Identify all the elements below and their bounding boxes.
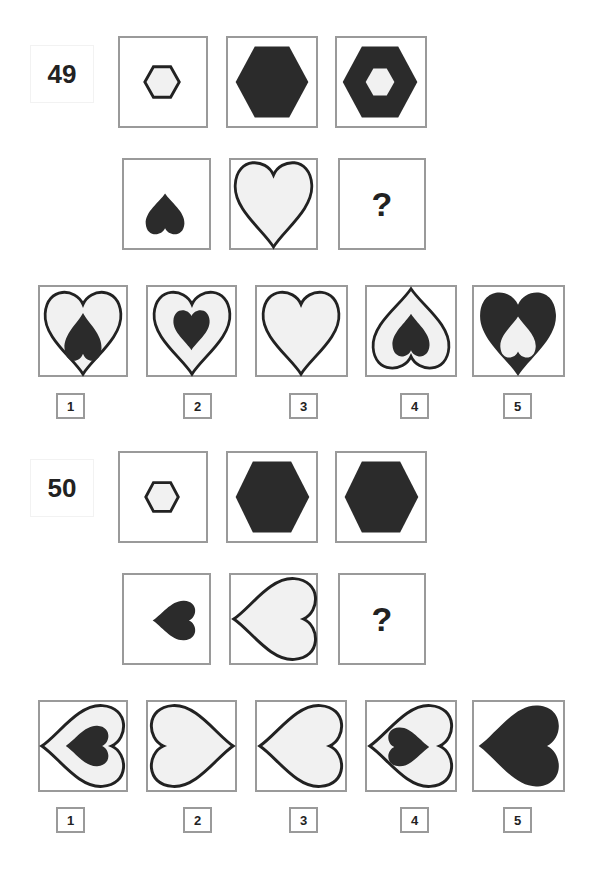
p50-option-1[interactable] (38, 700, 128, 792)
outline-right-pointing-heart-icon (148, 702, 235, 790)
large-solid-hexagon-icon (228, 453, 316, 541)
p50-row1-cell1 (118, 451, 208, 543)
solid-heart-with-light-inverted-heart-icon (474, 287, 563, 375)
small-solid-inverted-heart-icon (124, 160, 209, 248)
outline-heart-with-small-solid-heart-icon (148, 287, 235, 375)
p49-option-label-4[interactable]: 4 (400, 393, 429, 419)
p49-row2-cell2 (229, 158, 318, 250)
puzzle-number-49: 49 (30, 45, 94, 103)
p50-row1-cell3 (335, 451, 427, 543)
p50-option-label-5[interactable]: 5 (503, 807, 532, 833)
p50-row2-cell3: ? (338, 573, 426, 665)
p50-option-label-3[interactable]: 3 (289, 807, 318, 833)
outline-left-heart-with-solid-right-heart-icon (367, 702, 455, 790)
inverted-outline-heart-with-inverted-solid-heart-icon (367, 287, 455, 375)
p49-option-label-5[interactable]: 5 (503, 393, 532, 419)
large-solid-hexagon-icon (337, 453, 425, 541)
question-mark: ? (340, 160, 424, 248)
p49-row2-cell3: ? (338, 158, 426, 250)
p50-option-4[interactable] (365, 700, 457, 792)
p49-option-label-2[interactable]: 2 (183, 393, 212, 419)
p49-option-1[interactable] (38, 285, 128, 377)
p49-option-3[interactable] (255, 285, 348, 377)
question-mark: ? (340, 575, 424, 663)
large-outline-left-pointing-heart-icon (231, 575, 316, 663)
large-solid-hexagon-icon (228, 38, 316, 126)
p49-option-2[interactable] (146, 285, 237, 377)
p49-row2-cell1 (122, 158, 211, 250)
p49-option-4[interactable] (365, 285, 457, 377)
p50-option-label-4[interactable]: 4 (400, 807, 429, 833)
p49-option-label-1[interactable]: 1 (56, 393, 85, 419)
outline-left-pointing-heart-icon (257, 702, 345, 790)
p49-option-5[interactable] (472, 285, 565, 377)
outline-heart-with-inverted-solid-heart-icon (40, 287, 126, 375)
p50-option-2[interactable] (146, 700, 237, 792)
solid-left-pointing-heart-icon (474, 702, 563, 790)
p49-option-label-3[interactable]: 3 (289, 393, 318, 419)
p49-row1-cell3 (335, 36, 427, 128)
p50-row2-cell1 (122, 573, 211, 665)
solid-hexagon-with-inner-hexagon-icon (337, 38, 425, 126)
puzzle-number-50: 50 (30, 459, 94, 517)
p50-option-3[interactable] (255, 700, 347, 792)
p49-row1-cell2 (226, 36, 318, 128)
p50-option-5[interactable] (472, 700, 565, 792)
small-solid-left-pointing-heart-icon (124, 575, 209, 663)
outline-left-heart-with-solid-left-heart-icon (40, 702, 126, 790)
p50-row2-cell2 (229, 573, 318, 665)
p50-option-label-2[interactable]: 2 (183, 807, 212, 833)
large-outline-heart-icon (257, 287, 346, 375)
large-outline-heart-icon (231, 160, 316, 248)
p50-option-label-1[interactable]: 1 (56, 807, 85, 833)
small-outline-hexagon-icon (120, 38, 206, 126)
p49-row1-cell1 (118, 36, 208, 128)
p50-row1-cell2 (226, 451, 318, 543)
small-outline-hexagon-icon (120, 453, 206, 541)
